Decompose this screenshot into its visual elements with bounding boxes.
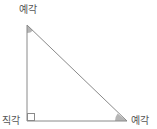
triangle-diagram bbox=[0, 0, 157, 129]
triangle-outline bbox=[27, 25, 127, 121]
right-angle-label: 직각 bbox=[2, 115, 20, 127]
right-angle-marker bbox=[28, 114, 35, 121]
bottom-right-angle-label: 예각 bbox=[131, 115, 149, 127]
top-angle-label: 예각 bbox=[19, 4, 37, 16]
